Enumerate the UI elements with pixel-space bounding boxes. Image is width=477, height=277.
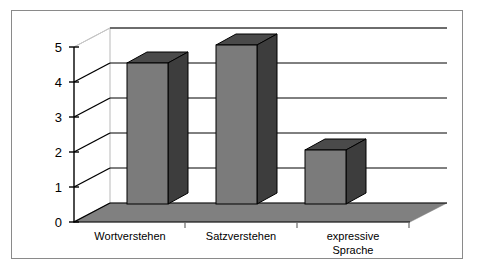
y-tick-label-2: 2: [55, 145, 62, 160]
x-label-wortverstehen: Wortverstehen: [94, 230, 165, 242]
bar-satzverstehen[interactable]: [216, 34, 277, 204]
y-tick-label-1: 1: [55, 180, 62, 195]
bar-chart-plot: 5 4 3 2 1 0: [0, 0, 477, 277]
x-axis: [73, 222, 410, 228]
x-category-labels: Wortverstehen Satzverstehen expressive S…: [94, 230, 379, 256]
chart-figure: 5 4 3 2 1 0: [0, 0, 477, 277]
bar-wortverstehen[interactable]: [127, 52, 188, 204]
y-tick-label-4: 4: [55, 75, 62, 90]
y-tick-label-0: 0: [55, 215, 62, 230]
y-tick-label-3: 3: [55, 110, 62, 125]
x-label-expressive-sprache-line2: Sprache: [333, 244, 374, 256]
bar-expressive-sprache[interactable]: [305, 139, 366, 204]
y-axis: [69, 47, 79, 222]
y-tick-label-5: 5: [55, 40, 62, 55]
x-label-satzverstehen: Satzverstehen: [206, 230, 276, 242]
x-label-expressive-sprache-line1: expressive: [327, 230, 380, 242]
plot-floor: [73, 203, 447, 222]
y-tick-labels: 5 4 3 2 1 0: [55, 40, 62, 230]
axis-depth-connectors: [74, 28, 110, 222]
